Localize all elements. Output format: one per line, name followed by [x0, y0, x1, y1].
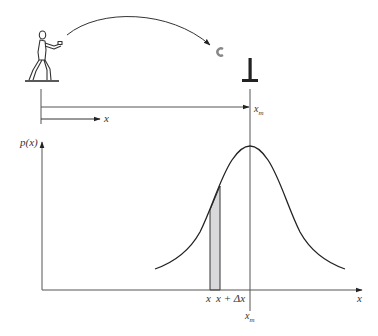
trajectory-arc [67, 17, 210, 45]
x-axis-label: x [356, 292, 362, 304]
y-axis-label: p(x) [19, 136, 38, 149]
distance-x-label: x [103, 112, 109, 124]
diagram-canvas: x xm p(x) x x x + Δx xm [0, 0, 378, 336]
strip-right-label: x + Δx [215, 292, 245, 304]
thrower-figure [25, 31, 62, 81]
peak-xm-label: xm [244, 310, 255, 324]
target-stake-icon [242, 58, 258, 82]
horseshoe-icon [217, 48, 223, 55]
strip-left-label: x [205, 292, 211, 304]
person-throwing-icon [29, 31, 62, 80]
probability-strip [210, 186, 220, 290]
target-xm-label: xm [253, 103, 264, 117]
